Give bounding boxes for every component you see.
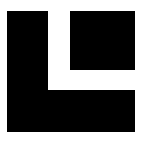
l-horizontal-bar	[7, 90, 135, 132]
square-block	[70, 11, 135, 70]
